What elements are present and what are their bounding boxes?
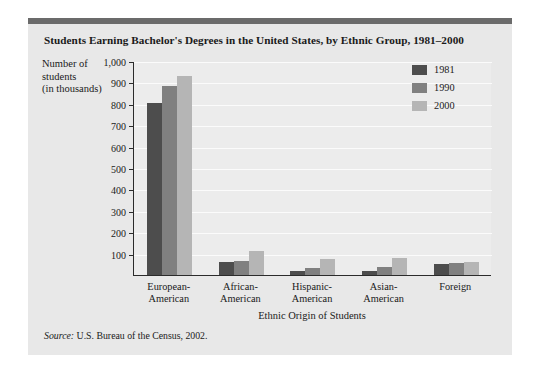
source-note: Source: U.S. Bureau of the Census, 2002. — [44, 330, 207, 341]
x-axis-label-line: American — [220, 293, 261, 305]
y-tick-label: 200 — [111, 228, 126, 239]
bar[interactable] — [162, 86, 177, 275]
x-axis-label-line: Foreign — [439, 281, 471, 293]
chart-legend: 198119902000 — [412, 64, 482, 118]
y-tick-mark — [129, 233, 133, 234]
chart-title: Students Earning Bachelor's Degrees in t… — [44, 34, 500, 46]
source-label: Source: — [44, 330, 74, 341]
figure-card: Students Earning Bachelor's Degrees in t… — [28, 18, 512, 355]
y-tick-mark — [129, 169, 133, 170]
legend-label: 2000 — [434, 100, 455, 111]
y-tick-label: 1,000 — [104, 57, 127, 68]
x-axis-label-line: Hispanic- — [292, 281, 333, 293]
bar[interactable] — [362, 271, 377, 275]
x-axis-label: European-American — [147, 281, 190, 305]
x-axis-label-line: European- — [147, 281, 190, 293]
x-axis-label-line: American — [292, 293, 333, 305]
bar-group — [349, 62, 421, 275]
y-tick-mark — [129, 148, 133, 149]
legend-label: 1990 — [434, 82, 455, 93]
y-tick-label: 700 — [111, 121, 126, 132]
top-rule-divider — [28, 18, 512, 24]
y-tick-label: 300 — [111, 206, 126, 217]
y-tick-mark — [129, 126, 133, 127]
y-tick-label: 100 — [111, 249, 126, 260]
legend-item[interactable]: 2000 — [412, 100, 482, 111]
bar-group — [134, 62, 206, 275]
legend-swatch — [412, 101, 427, 111]
y-tick-label: 900 — [111, 78, 126, 89]
y-tick-mark — [129, 212, 133, 213]
source-value: U.S. Bureau of the Census, 2002. — [74, 330, 207, 341]
legend-swatch — [412, 65, 427, 75]
y-tick-mark — [129, 255, 133, 256]
bar-group — [206, 62, 278, 275]
bar[interactable] — [219, 262, 234, 275]
bar[interactable] — [234, 261, 249, 275]
bar-group — [277, 62, 349, 275]
bar[interactable] — [434, 264, 449, 275]
y-tick-label: 800 — [111, 99, 126, 110]
bar[interactable] — [320, 259, 335, 275]
x-axis-label-line: African- — [220, 281, 261, 293]
y-tick-mark — [129, 190, 133, 191]
x-axis-label: African-American — [220, 281, 261, 305]
y-tick-mark — [129, 62, 133, 63]
x-axis-label-line: Asian- — [363, 281, 404, 293]
y-tick-mark — [129, 105, 133, 106]
x-axis-label: Asian-American — [363, 281, 404, 305]
legend-item[interactable]: 1981 — [412, 64, 482, 75]
y-tick-label: 600 — [111, 142, 126, 153]
x-axis-label: Hispanic-American — [292, 281, 333, 305]
x-axis-label-line: American — [147, 293, 190, 305]
bar[interactable] — [392, 258, 407, 275]
bar[interactable] — [464, 262, 479, 275]
bar[interactable] — [249, 251, 264, 275]
bar[interactable] — [290, 271, 305, 275]
x-axis-label-line: American — [363, 293, 404, 305]
legend-label: 1981 — [434, 64, 455, 75]
bar[interactable] — [177, 76, 192, 275]
y-tick-label: 500 — [111, 164, 126, 175]
legend-item[interactable]: 1990 — [412, 82, 482, 93]
legend-swatch — [412, 83, 427, 93]
x-axis-label: Foreign — [439, 281, 471, 293]
y-tick-mark — [129, 83, 133, 84]
bar[interactable] — [147, 103, 162, 275]
bar[interactable] — [449, 263, 464, 275]
x-axis-title: Ethnic Origin of Students — [133, 310, 491, 321]
y-tick-label: 400 — [111, 185, 126, 196]
bar[interactable] — [377, 267, 392, 275]
bar[interactable] — [305, 268, 320, 275]
